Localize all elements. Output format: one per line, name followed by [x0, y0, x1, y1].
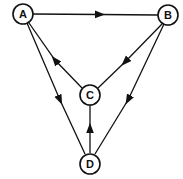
svg-text:A: A [19, 8, 27, 20]
edge-c-a [29, 23, 82, 88]
edge-a-d [27, 23, 85, 154]
svg-text:D: D [86, 158, 94, 170]
node-a: A [13, 4, 33, 24]
svg-text:B: B [164, 9, 172, 21]
node-c: C [80, 85, 100, 105]
node-b: B [158, 5, 178, 25]
svg-text:C: C [86, 89, 94, 101]
edge-a-b [33, 14, 158, 15]
edge-b-d [95, 24, 164, 154]
directed-graph: A B C D [0, 0, 183, 179]
node-d: D [80, 154, 100, 174]
edge-b-c [98, 24, 162, 88]
